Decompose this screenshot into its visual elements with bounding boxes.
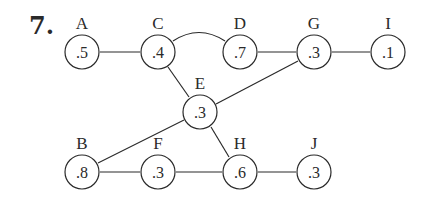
node-b: B .8 [65, 134, 99, 189]
node-a: A .5 [65, 14, 99, 69]
node-h-value: .6 [234, 164, 246, 181]
node-i-value: .1 [382, 44, 394, 61]
node-h-label: H [234, 134, 246, 153]
node-d-value: .7 [234, 44, 246, 61]
node-j-value: .3 [308, 164, 320, 181]
edge-e-h [211, 127, 229, 157]
node-e-value: .3 [194, 104, 206, 121]
problem-number: 7. [29, 11, 54, 40]
node-i: I .1 [371, 14, 405, 69]
node-a-value: .5 [76, 44, 88, 61]
edge-c-e [168, 67, 189, 97]
graph-diagram: 7. A .5 C .4 D .7 G .3 I [0, 0, 422, 197]
node-g: G .3 [297, 14, 331, 69]
node-e: E .3 [183, 74, 217, 129]
edge-g-e [216, 61, 298, 104]
node-e-label: E [195, 74, 205, 93]
node-j: J .3 [297, 134, 331, 189]
edge-e-b [98, 120, 184, 163]
node-f-value: .3 [152, 164, 164, 181]
node-c: C .4 [141, 14, 175, 69]
node-f: F .3 [141, 134, 175, 189]
node-f-label: F [153, 134, 162, 153]
node-a-label: A [76, 14, 89, 33]
node-h: H .6 [223, 134, 257, 189]
node-d: D .7 [223, 14, 257, 69]
node-b-label: B [76, 134, 87, 153]
node-g-label: G [308, 14, 320, 33]
node-d-label: D [234, 14, 246, 33]
node-c-label: C [152, 14, 163, 33]
node-g-value: .3 [308, 44, 320, 61]
node-i-label: I [385, 14, 391, 33]
node-j-label: J [311, 134, 318, 153]
node-b-value: .8 [76, 164, 88, 181]
edge-c-d-arc [173, 33, 225, 42]
node-c-value: .4 [152, 44, 164, 61]
